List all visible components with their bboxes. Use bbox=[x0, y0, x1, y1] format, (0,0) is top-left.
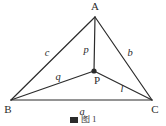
vertex-label-a: A bbox=[91, 0, 99, 12]
segment-label-a: a bbox=[79, 106, 84, 117]
vertex-label-c: C bbox=[151, 103, 158, 115]
segment-label-q: q bbox=[55, 71, 60, 82]
segment-label-c: c bbox=[45, 47, 50, 58]
segment-pb bbox=[11, 71, 94, 100]
segment-pa bbox=[94, 17, 95, 71]
vertex-label-b: B bbox=[4, 103, 11, 115]
segment-label-b: b bbox=[127, 47, 132, 58]
figure-root: A B C P c b a p q l 图 1 bbox=[0, 0, 166, 126]
segment-ac bbox=[95, 17, 152, 100]
segment-label-p: p bbox=[82, 44, 88, 55]
geometry-diagram: A B C P c b a p q l bbox=[0, 0, 166, 126]
vertex-label-p: P bbox=[94, 74, 100, 86]
segment-label-l: l bbox=[121, 83, 124, 94]
point-p-marker bbox=[91, 68, 96, 73]
segment-ab bbox=[11, 17, 95, 100]
